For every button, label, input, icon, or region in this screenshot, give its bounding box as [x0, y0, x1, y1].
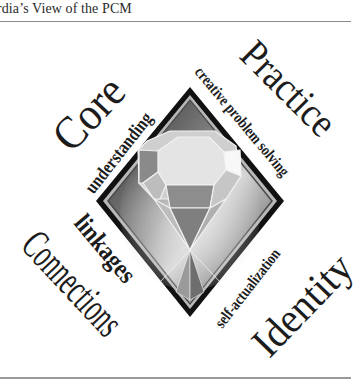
footer-divider — [0, 377, 351, 379]
